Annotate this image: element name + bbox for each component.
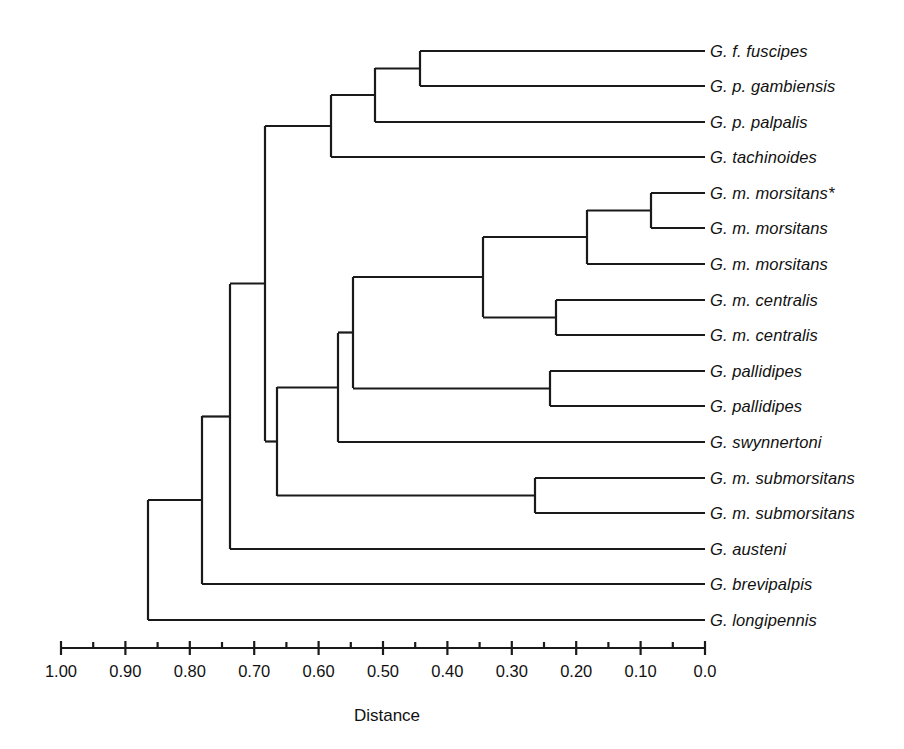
axis-tick-label: 0.20 [560, 662, 592, 681]
axis-tick-label: 0.0 [694, 662, 717, 681]
leaf-label: G. m. submorsitans [710, 469, 855, 488]
leaf-label: G. p. gambiensis [710, 77, 835, 96]
axis-tick-label: 0.80 [174, 662, 206, 681]
axis-tick-label: 0.70 [238, 662, 270, 681]
axis-tick-label: 0.60 [303, 662, 335, 681]
leaf-label: G. austeni [710, 540, 786, 559]
axis-tick-label: 0.30 [496, 662, 528, 681]
leaf-label: G. longipennis [710, 611, 817, 630]
leaf-label: G. pallidipes [710, 362, 802, 381]
axis-tick-label: 1.00 [45, 662, 77, 681]
leaf-label: G. m. submorsitans [710, 504, 855, 523]
leaf-label: G. brevipalpis [710, 575, 812, 594]
axis-tick-label: 0.40 [431, 662, 463, 681]
axis-tick-label: 0.10 [625, 662, 657, 681]
axis-tick-label: 0.50 [367, 662, 399, 681]
tree-branch-lines [148, 51, 705, 620]
leaf-label: G. m. centralis [710, 326, 818, 345]
leaf-label: G. m. centralis [710, 291, 818, 310]
leaf-label: G. p. palpalis [710, 113, 808, 132]
axis-tick-label: 0.90 [109, 662, 141, 681]
leaf-label: G. f. fuscipes [710, 42, 808, 61]
leaf-label: G. tachinoides [710, 148, 817, 167]
leaf-label: G. swynnertoni [710, 433, 821, 452]
leaf-label: G. m. morsitans [710, 255, 828, 274]
dendrogram-figure: G. f. fuscipesG. p. gambiensisG. p. palp… [0, 0, 904, 749]
leaf-label: G. m. morsitans [710, 219, 828, 238]
distance-axis [61, 641, 705, 655]
leaf-label: G. pallidipes [710, 397, 802, 416]
axis-title: Distance [354, 706, 420, 726]
leaf-label: G. m. morsitans* [710, 184, 834, 203]
